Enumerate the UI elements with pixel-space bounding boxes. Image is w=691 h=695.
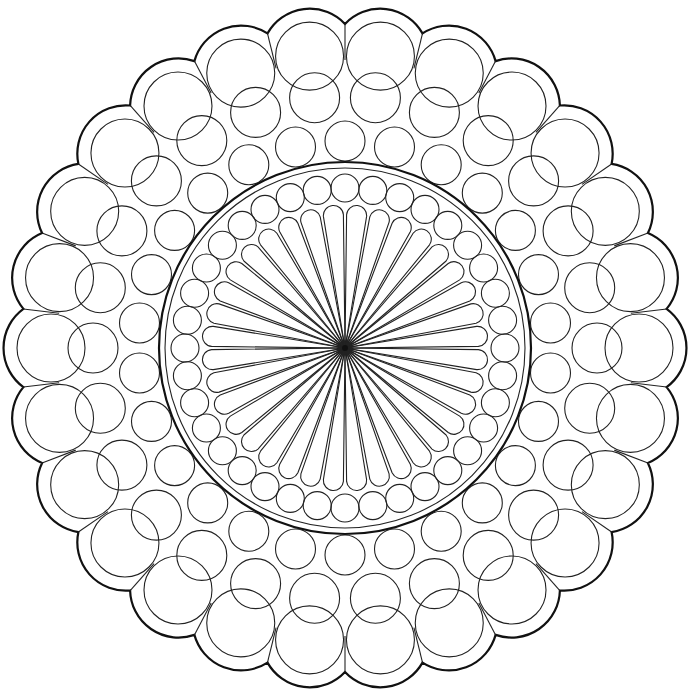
middle-ring-circle (462, 483, 502, 523)
middle-ring-circle (531, 353, 571, 393)
scallop-divider (267, 628, 276, 663)
middle-ring-circle (132, 401, 172, 441)
inner-ring-circle (276, 484, 304, 512)
inner-ring-circle (386, 484, 414, 512)
center-hub (342, 345, 348, 351)
scallop-lobe-arc (415, 39, 483, 107)
inner-ring-circle (192, 414, 220, 442)
radiating-petals (202, 205, 487, 490)
middle-ring-circle (495, 210, 535, 250)
inner-ring-circle (470, 254, 498, 282)
outer-ring-circle (177, 530, 227, 580)
scallop-divider (78, 512, 108, 532)
outer-ring-circle (290, 73, 340, 123)
outer-ring-circle (290, 573, 340, 623)
scallop-lobe-arc (276, 22, 344, 90)
outer-ring-circle (350, 573, 400, 623)
scallop-lobe-arc (91, 509, 159, 577)
scallop-divider (582, 164, 612, 184)
inner-ring-circle (251, 195, 279, 223)
scallop-divider (582, 512, 612, 532)
scallop-divider (536, 564, 560, 591)
middle-ring-circle (188, 483, 228, 523)
scallop-lobe-arc (596, 244, 664, 312)
scallop-lobe-arc (51, 177, 119, 245)
scallop-lobe-arc (276, 606, 344, 674)
scallop-lobe-arc (478, 72, 546, 140)
outer-ring-circle (565, 263, 615, 313)
middle-ring-circle (276, 529, 316, 569)
scallop-divider (78, 164, 108, 184)
outer-ring-circle (543, 440, 593, 490)
scallop-lobe-arc (571, 451, 639, 519)
scallop-lobe-arc (91, 119, 159, 187)
inner-ring-circle (303, 176, 331, 204)
scallop-divider (130, 105, 154, 132)
middle-ring-circle (155, 446, 195, 486)
outer-ring-circle (97, 440, 147, 490)
scallop-lobe-arc (144, 72, 212, 140)
outer-ring-circle (97, 206, 147, 256)
inner-ring-circle (173, 306, 201, 334)
middle-ring-circle (325, 121, 365, 161)
outer-ring-circle (75, 383, 125, 433)
scallop-lobe-arc (207, 589, 275, 657)
middle-ring-circle (155, 210, 195, 250)
scallop-divider (194, 61, 211, 93)
scallop-divider (130, 564, 154, 591)
scallop-lobe-arc (531, 119, 599, 187)
middle-ring-circle (531, 303, 571, 343)
scallop-divider (479, 61, 496, 93)
outer-ring-circle (543, 206, 593, 256)
scallop-divider (267, 33, 276, 68)
scallop-lobe-arc (346, 606, 414, 674)
outer-ring-circle (572, 323, 622, 373)
inner-ring-circle (489, 362, 517, 390)
middle-ring-circle (188, 173, 228, 213)
outer-ring-circle (350, 73, 400, 123)
outer-ring-circle (131, 156, 181, 206)
inner-ring-circle (481, 389, 509, 417)
outer-ring-circle (509, 490, 559, 540)
scallop-lobe-arc (144, 556, 212, 624)
middle-ring-circle (132, 255, 172, 295)
outer-ring-circle (565, 383, 615, 433)
inner-ring-circle (411, 473, 439, 501)
scallop-lobe-arc (17, 314, 85, 382)
outer-ring-circle (409, 87, 459, 137)
inner-ring-circle (331, 494, 359, 522)
outer-ring-circle (463, 530, 513, 580)
inner-ring-circle (181, 389, 209, 417)
middle-ring-circle (120, 353, 160, 393)
scallop-lobe-arc (605, 314, 673, 382)
middle-ring-circle (229, 145, 269, 185)
scallop-lobe-arc (26, 384, 94, 452)
inner-ring-circle (491, 334, 519, 362)
scallop-lobe-arc (478, 556, 546, 624)
scallop-divider (536, 105, 560, 132)
middle-ring-circle (325, 535, 365, 575)
outer-ring-circle (509, 156, 559, 206)
scallop-lobe-arc (531, 509, 599, 577)
outer-ring-circle (75, 263, 125, 313)
inner-ring-circle (489, 306, 517, 334)
middle-ring-circle (495, 446, 535, 486)
outer-ring-circle (463, 116, 513, 166)
outer-ring-circle (131, 490, 181, 540)
scallop-lobe-arc (26, 244, 94, 312)
outer-ring-circle (177, 116, 227, 166)
middle-ring-circle (519, 401, 559, 441)
scallop-divider (414, 33, 423, 68)
rosette-drawing (0, 0, 691, 695)
outer-ring-circle (68, 323, 118, 373)
scallop-lobe-arc (571, 177, 639, 245)
middle-ring-circle (375, 127, 415, 167)
inner-ring-circle (181, 279, 209, 307)
inner-ring-circle (481, 279, 509, 307)
scallop-lobe-arc (51, 451, 119, 519)
middle-ring-circle (375, 529, 415, 569)
middle-ring-circle (421, 145, 461, 185)
inner-ring-circle (173, 362, 201, 390)
middle-ring-circle (421, 511, 461, 551)
inner-ring-circle (386, 184, 414, 212)
